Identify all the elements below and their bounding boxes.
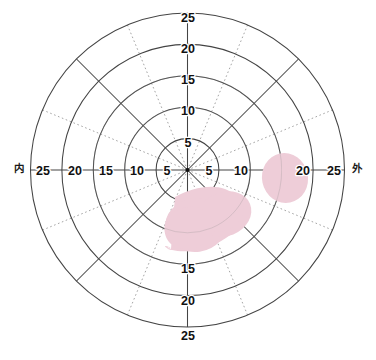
tick-top-25: 25: [181, 11, 195, 25]
tick-top-10: 10: [181, 104, 195, 118]
label-inner-side: 内: [14, 162, 24, 174]
tick-right-20: 20: [296, 164, 310, 178]
tick-top-15: 15: [181, 73, 195, 87]
tick-left-10: 10: [130, 164, 144, 178]
tick-left-5: 5: [164, 164, 171, 178]
tick-left-20: 20: [68, 164, 82, 178]
tick-right-10: 10: [234, 164, 248, 178]
visual-field-chart: 25 20 15 10 5 5 10 20 25 25 20 15 10 5 1…: [0, 0, 376, 360]
label-outer-side: 外: [351, 162, 363, 174]
tick-bottom-15: 15: [181, 262, 195, 276]
polar-plot-svg: 25 20 15 10 5 5 10 20 25 25 20 15 10 5 1…: [0, 0, 376, 360]
tick-top-5: 5: [185, 136, 192, 150]
tick-bottom-20: 20: [181, 294, 195, 308]
tick-right-5: 5: [206, 164, 213, 178]
tick-right-25: 25: [327, 164, 341, 178]
fixation-point: [185, 168, 189, 172]
tick-left-25: 25: [36, 164, 50, 178]
tick-bottom-25: 25: [181, 329, 195, 343]
tick-left-15: 15: [99, 164, 113, 178]
tick-top-20: 20: [181, 42, 195, 56]
